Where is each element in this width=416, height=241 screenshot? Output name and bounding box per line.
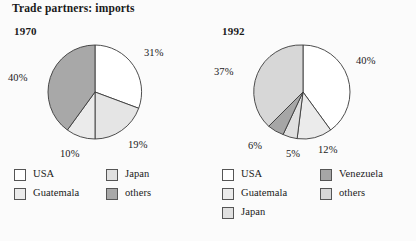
pie-label-usa-1992: 40% xyxy=(356,55,376,66)
pie-label-venezuela-1992: 6% xyxy=(248,140,262,151)
legend-swatch-venezuela-icon xyxy=(320,169,332,181)
legend-item-japan-1970[interactable]: Japan xyxy=(106,165,151,184)
legend-label-venezuela-1992: Venezuela xyxy=(339,169,383,180)
pie-panel-1970: 1970 31% 19% 10% 40% USA xyxy=(0,22,208,241)
legend-label-japan-1970: Japan xyxy=(125,169,149,180)
legend-swatch-japan-icon xyxy=(222,207,234,219)
legend-label-usa-1970: USA xyxy=(33,169,54,180)
legend-label-usa-1992: USA xyxy=(241,169,262,180)
legend-label-guatemala-1970: Guatemala xyxy=(33,188,79,199)
legend-swatch-others-icon xyxy=(106,188,118,200)
legend-item-usa-1992[interactable]: USA xyxy=(222,165,287,184)
chart-canvas: Trade partners: imports 1970 31% 19% 10%… xyxy=(0,0,416,241)
legend-item-japan-1992[interactable]: Japan xyxy=(222,203,287,222)
legend-item-guatemala-1970[interactable]: Guatemala xyxy=(14,184,79,203)
pie-chart-1970 xyxy=(47,44,143,140)
year-label-1970: 1970 xyxy=(14,25,37,37)
pie-svg-1970 xyxy=(47,44,143,140)
legend-column-right-1970: Japan others xyxy=(106,165,151,203)
legend-column-right-1992: Venezuela others xyxy=(320,165,383,203)
legend-item-usa-1970[interactable]: USA xyxy=(14,165,79,184)
pie-svg-1992 xyxy=(255,44,351,140)
pie-chart-1992 xyxy=(255,44,351,140)
legend-swatch-usa-icon xyxy=(222,169,234,181)
legend-label-others-1970: others xyxy=(125,188,151,199)
legend-swatch-japan-icon xyxy=(106,169,118,181)
pie-label-others-1992: 37% xyxy=(214,66,234,77)
legend-item-others-1970[interactable]: others xyxy=(106,184,151,203)
pie-panel-1992: 1992 40% 12% 5% 6% 37% xyxy=(208,22,416,241)
legend-item-others-1992[interactable]: others xyxy=(320,184,383,203)
pie-label-guatemala-1992: 12% xyxy=(318,144,338,155)
pie-label-japan-1992: 5% xyxy=(286,148,300,159)
legend-column-left-1992: USA Guatemala Japan xyxy=(222,165,287,222)
pie-label-others-1970: 40% xyxy=(8,72,28,83)
legend-swatch-guatemala-icon xyxy=(14,188,26,200)
pie-label-guatemala-1970: 10% xyxy=(60,148,80,159)
legend-swatch-usa-icon xyxy=(14,169,26,181)
legend-label-others-1992: others xyxy=(339,188,365,199)
chart-title: Trade partners: imports xyxy=(12,2,135,14)
legend-swatch-guatemala-icon xyxy=(222,188,234,200)
pie-label-japan-1970: 19% xyxy=(128,139,148,150)
legend-swatch-others-icon xyxy=(320,188,332,200)
pie-label-usa-1970: 31% xyxy=(144,47,164,58)
legend-item-guatemala-1992[interactable]: Guatemala xyxy=(222,184,287,203)
year-label-1992: 1992 xyxy=(222,25,245,37)
legend-item-venezuela-1992[interactable]: Venezuela xyxy=(320,165,383,184)
legend-label-guatemala-1992: Guatemala xyxy=(241,188,287,199)
legend-column-left-1970: USA Guatemala xyxy=(14,165,79,203)
legend-label-japan-1992: Japan xyxy=(241,207,265,218)
